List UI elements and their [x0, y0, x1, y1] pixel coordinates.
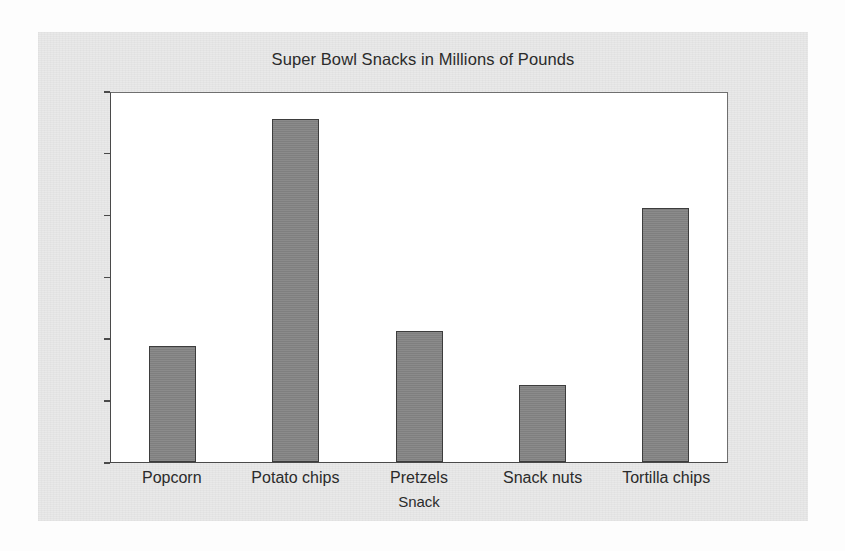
bar[interactable]	[396, 331, 443, 462]
y-tick-mark	[104, 338, 110, 340]
x-axis-tick-labels: PopcornPotato chipsPretzelsSnack nutsTor…	[110, 469, 728, 487]
x-tick-label: Potato chips	[234, 469, 358, 487]
chart-figure: Super Bowl Snacks in Millions of Pounds …	[38, 32, 808, 521]
y-axis-title: Pounds in Millions	[36, 0, 62, 58]
y-axis-title-text: Pounds in Millions	[176, 0, 194, 58]
bar-slot	[481, 93, 604, 462]
bar-slot	[357, 93, 480, 462]
y-tick-mark	[104, 91, 110, 93]
y-tick-mark	[104, 153, 110, 155]
y-tick-mark	[104, 215, 110, 217]
scanned-page: Super Bowl Snacks in Millions of Pounds …	[0, 0, 845, 551]
bar[interactable]	[642, 208, 689, 462]
x-tick-label: Popcorn	[110, 469, 234, 487]
x-tick-label: Pretzels	[357, 469, 481, 487]
bar-slot	[111, 93, 234, 462]
bar[interactable]	[149, 346, 196, 462]
bar-slot	[234, 93, 357, 462]
y-tick-mark	[104, 462, 110, 464]
bar-series	[111, 93, 727, 462]
bar-slot	[604, 93, 727, 462]
y-tick-mark	[104, 277, 110, 279]
y-tick-mark	[104, 400, 110, 402]
x-tick-label: Snack nuts	[481, 469, 605, 487]
x-axis-title: Snack	[110, 493, 728, 510]
chart-title: Super Bowl Snacks in Millions of Pounds	[38, 50, 808, 69]
plot-area	[110, 92, 728, 463]
bar[interactable]	[519, 385, 566, 462]
bar[interactable]	[272, 119, 319, 462]
x-tick-label: Tortilla chips	[604, 469, 728, 487]
